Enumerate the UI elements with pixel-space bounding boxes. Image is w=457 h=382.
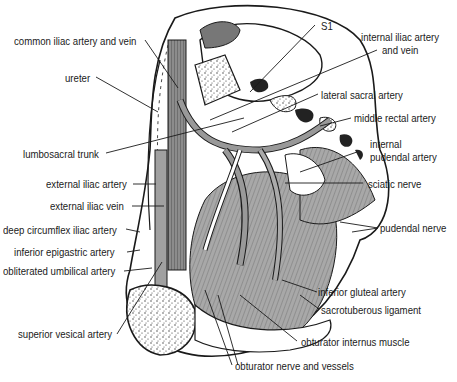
pubis — [127, 285, 196, 355]
label-lumbosacral-trunk: lumbosacral trunk — [23, 148, 99, 160]
label-lateral-sacral: lateral sacral artery — [321, 89, 403, 101]
label-external-iliac-artery: external iliac artery — [46, 178, 127, 190]
label-internal-iliac-line2: and vein — [382, 44, 418, 56]
label-sciatic-nerve: sciatic nerve — [368, 178, 421, 190]
label-pudendal-nerve: pudendal nerve — [380, 222, 446, 234]
label-inferior-gluteal: inferior gluteal artery — [318, 286, 406, 298]
label-common-iliac: common iliac artery and vein — [14, 35, 136, 47]
label-ureter: ureter — [65, 72, 90, 84]
pelvis-illustration — [0, 0, 457, 382]
label-superior-vesical: superior vesical artery — [18, 328, 112, 340]
label-sacrotuberous: sacrotuberous ligament — [321, 304, 421, 316]
label-internal-pudendal-line2: pudendal artery — [370, 151, 437, 163]
anatomy-diagram: common iliac artery and vein ureter lumb… — [0, 0, 457, 382]
label-obturator-nerve: obturator nerve and vessels — [235, 360, 354, 372]
label-s1: S1 — [321, 20, 333, 32]
label-internal-iliac-line1: internal iliac artery — [361, 31, 439, 43]
label-middle-rectal: middle rectal artery — [354, 112, 436, 124]
label-external-iliac-vein: external iliac vein — [50, 200, 124, 212]
label-inferior-epigastric: inferior epigastric artery — [14, 246, 115, 258]
label-obturator-internus: obturator internus muscle — [301, 336, 410, 348]
label-internal-pudendal-line1: internal — [370, 138, 402, 150]
label-obliterated-umbilical: obliterated umbilical artery — [3, 265, 115, 277]
label-deep-circumflex-iliac: deep circumflex iliac artery — [3, 224, 117, 236]
